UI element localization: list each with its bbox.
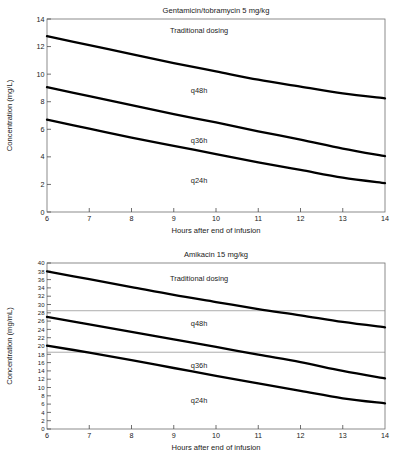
amikacin-chart: Amikacin 15 mg/kg02468101214161820222426… <box>0 236 406 455</box>
y-tick-label: 34 <box>38 285 45 291</box>
y-tick-label: 2 <box>41 418 45 424</box>
x-tick-label: 11 <box>255 214 262 223</box>
y-tick-label: 30 <box>38 302 45 308</box>
gentamicin-chart: Gentamicin/tobramycin 5 mg/kg02468101214… <box>0 0 406 236</box>
y-tick-label: 40 <box>38 260 45 266</box>
region-label: q24h <box>191 176 207 185</box>
y-tick-label: 4 <box>41 152 45 161</box>
region-label: q48h <box>191 86 207 95</box>
x-tick-label: 13 <box>339 214 347 223</box>
y-tick-label: 6 <box>41 401 45 407</box>
x-tick-label: 7 <box>87 431 91 440</box>
y-tick-label: 36 <box>38 277 45 283</box>
region-label: Traditional dosing <box>170 274 228 283</box>
region-label: Traditional dosing <box>170 26 228 35</box>
x-tick-label: 14 <box>381 431 389 440</box>
x-tick-label: 12 <box>297 431 305 440</box>
y-tick-label: 32 <box>38 293 45 299</box>
x-tick-label: 13 <box>339 431 347 440</box>
chart-panel-gentamicin: Gentamicin/tobramycin 5 mg/kg02468101214… <box>0 0 406 236</box>
y-axis-title: Concentration (mg/L) <box>5 79 14 151</box>
chart-title: Gentamicin/tobramycin 5 mg/kg <box>163 6 270 15</box>
y-tick-label: 12 <box>38 376 45 382</box>
y-tick-label: 8 <box>41 393 45 399</box>
y-tick-label: 14 <box>37 15 45 24</box>
curve-q48h-boundary <box>47 36 385 98</box>
y-tick-label: 2 <box>41 180 45 189</box>
x-axis-title: Hours after end of infusion <box>171 443 260 452</box>
y-tick-label: 0 <box>41 208 45 217</box>
x-tick-label: 9 <box>172 214 176 223</box>
y-tick-label: 22 <box>38 335 45 341</box>
x-tick-label: 6 <box>45 431 49 440</box>
y-tick-label: 8 <box>41 97 45 106</box>
y-tick-label: 28 <box>38 310 45 316</box>
x-tick-label: 7 <box>87 214 91 223</box>
x-tick-label: 8 <box>130 431 134 440</box>
x-axis-title: Hours after end of infusion <box>171 226 260 235</box>
y-tick-label: 18 <box>38 352 45 358</box>
chart-panel-amikacin: Amikacin 15 mg/kg02468101214161820222426… <box>0 236 406 455</box>
y-tick-label: 10 <box>38 385 45 391</box>
y-tick-label: 16 <box>38 360 45 366</box>
y-tick-label: 14 <box>38 368 45 374</box>
curve-q36h-boundary <box>47 317 385 378</box>
region-label: q36h <box>191 136 207 145</box>
x-tick-label: 10 <box>212 431 220 440</box>
chart-title: Amikacin 15 mg/kg <box>184 250 248 259</box>
x-tick-label: 11 <box>255 431 262 440</box>
region-label: q48h <box>191 319 207 328</box>
y-tick-label: 24 <box>38 327 45 333</box>
y-tick-label: 26 <box>38 318 45 324</box>
x-tick-label: 8 <box>130 214 134 223</box>
nomogram-figure: Gentamicin/tobramycin 5 mg/kg02468101214… <box>0 0 406 455</box>
curve-q24h-boundary <box>47 346 385 404</box>
x-tick-label: 12 <box>297 214 305 223</box>
curve-q36h-boundary <box>47 87 385 156</box>
y-tick-label: 20 <box>38 343 45 349</box>
curve-q24h-boundary <box>47 120 385 183</box>
y-tick-label: 38 <box>38 269 45 275</box>
x-tick-label: 9 <box>172 431 176 440</box>
x-tick-label: 14 <box>381 214 389 223</box>
region-label: q36h <box>191 361 207 370</box>
y-tick-label: 12 <box>37 42 45 51</box>
y-tick-label: 4 <box>41 410 45 416</box>
y-tick-label: 10 <box>37 70 45 79</box>
x-tick-label: 6 <box>45 214 49 223</box>
y-axis-title: Concentration (mg/mL) <box>5 307 14 385</box>
y-tick-label: 6 <box>41 125 45 134</box>
x-tick-label: 10 <box>212 214 220 223</box>
region-label: q24h <box>191 396 207 405</box>
